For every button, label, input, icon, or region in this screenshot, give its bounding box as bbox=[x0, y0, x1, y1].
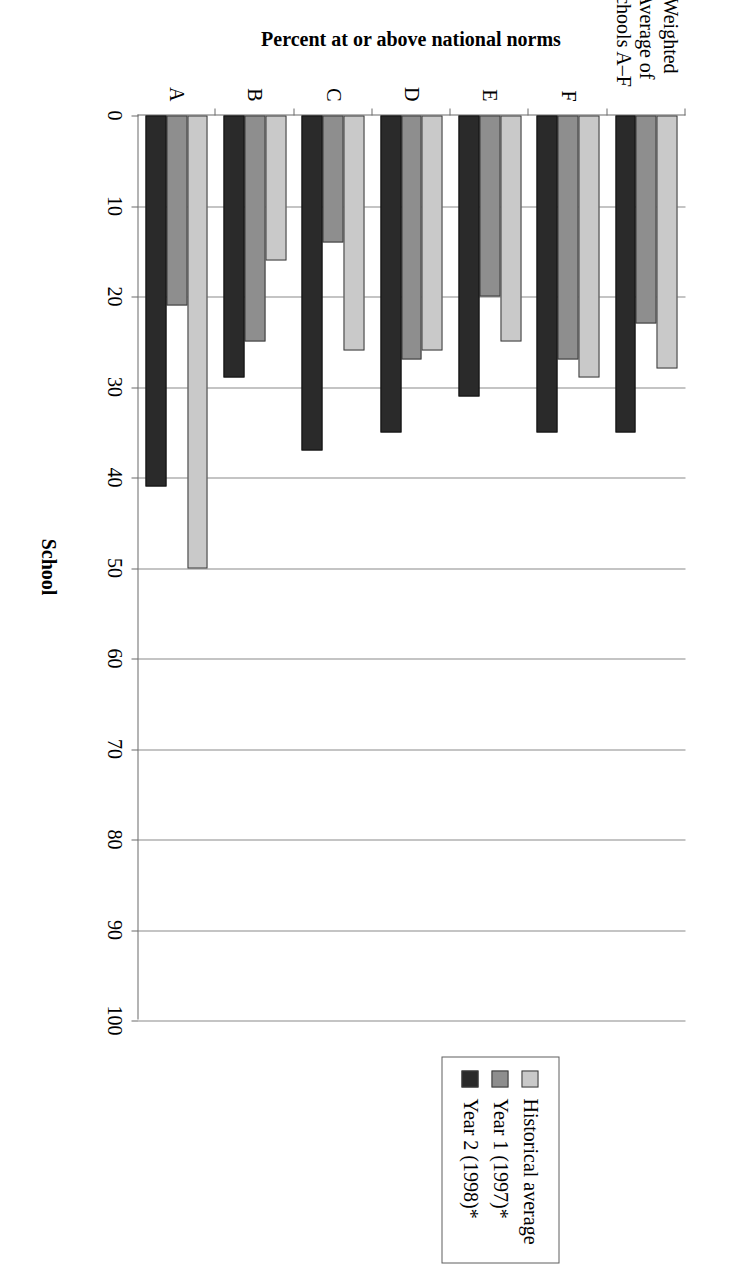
value-tick-label: 60 bbox=[102, 648, 125, 668]
value-tick bbox=[131, 387, 138, 388]
category-label: E bbox=[478, 89, 502, 101]
category-tick bbox=[371, 108, 372, 115]
bar bbox=[635, 115, 656, 323]
category-tick bbox=[449, 108, 450, 115]
gridline bbox=[138, 658, 685, 659]
bar bbox=[479, 115, 500, 296]
category-label: C bbox=[321, 88, 345, 101]
gridline bbox=[138, 387, 685, 388]
bar bbox=[401, 115, 422, 359]
bar bbox=[244, 115, 265, 341]
bar bbox=[265, 115, 286, 260]
category-label: F bbox=[556, 90, 580, 101]
value-tick-label: 0 bbox=[102, 110, 125, 120]
light-gray-swatch bbox=[522, 1070, 539, 1087]
bar bbox=[578, 115, 599, 377]
category-label: D bbox=[399, 87, 423, 101]
value-tick-label: 80 bbox=[102, 829, 125, 849]
plot-area: ABCDEFWeighted Average of Schools A–F010… bbox=[137, 114, 685, 1019]
category-label: Weighted Average of Schools A–F bbox=[610, 0, 681, 101]
bar bbox=[145, 115, 166, 486]
legend-item: Historical average bbox=[515, 1070, 545, 1244]
category-tick bbox=[684, 108, 685, 115]
gridline bbox=[138, 930, 685, 931]
value-tick bbox=[131, 1020, 138, 1021]
bar-chart-figure: Percent at or above national norms ABCDE… bbox=[0, 0, 749, 1277]
bar bbox=[322, 115, 343, 242]
y-axis-title: Percent at or above national norms bbox=[137, 26, 685, 52]
bar bbox=[536, 115, 557, 432]
legend-item-label: Historical average bbox=[519, 1098, 542, 1244]
gridline bbox=[138, 568, 685, 569]
bar bbox=[223, 115, 244, 377]
value-tick bbox=[131, 115, 138, 116]
gridline bbox=[138, 839, 685, 840]
bar bbox=[166, 115, 187, 305]
category-tick bbox=[606, 108, 607, 115]
legend-item-label: Year 2 (1998)* bbox=[459, 1098, 482, 1218]
category-tick bbox=[293, 108, 294, 115]
bar bbox=[343, 115, 364, 350]
value-tick-label: 30 bbox=[102, 377, 125, 397]
value-tick-label: 40 bbox=[102, 467, 125, 487]
value-tick bbox=[131, 839, 138, 840]
rotated-figure-container: Percent at or above national norms ABCDE… bbox=[0, 0, 749, 1277]
bar bbox=[557, 115, 578, 359]
bar bbox=[500, 115, 521, 341]
legend-item-label: Year 1 (1997)* bbox=[489, 1098, 512, 1218]
bar bbox=[187, 115, 208, 568]
value-tick bbox=[131, 296, 138, 297]
bar bbox=[421, 115, 442, 350]
x-axis-title: School bbox=[36, 114, 59, 1019]
value-tick bbox=[131, 930, 138, 931]
category-tick bbox=[527, 108, 528, 115]
value-tick-label: 90 bbox=[102, 920, 125, 940]
value-tick bbox=[131, 568, 138, 569]
bar bbox=[301, 115, 322, 450]
value-tick bbox=[131, 749, 138, 750]
value-tick bbox=[131, 206, 138, 207]
dark-swatch bbox=[462, 1070, 479, 1087]
y-axis-title-text: Percent at or above national norms bbox=[261, 28, 561, 51]
gridline bbox=[138, 1020, 685, 1021]
bar bbox=[458, 115, 479, 396]
value-tick-label: 20 bbox=[102, 286, 125, 306]
bar bbox=[615, 115, 636, 432]
category-label: B bbox=[243, 88, 267, 101]
value-tick-label: 50 bbox=[102, 558, 125, 578]
gridline bbox=[138, 477, 685, 478]
medium-gray-swatch bbox=[492, 1070, 509, 1087]
value-tick bbox=[131, 658, 138, 659]
bar bbox=[380, 115, 401, 432]
value-tick-label: 70 bbox=[102, 739, 125, 759]
value-tick-label: 100 bbox=[102, 1005, 125, 1035]
value-tick bbox=[131, 477, 138, 478]
value-tick-label: 10 bbox=[102, 196, 125, 216]
legend-item: Year 1 (1997)* bbox=[485, 1070, 515, 1244]
legend-item: Year 2 (1998)* bbox=[455, 1070, 485, 1244]
category-label: A bbox=[164, 87, 188, 101]
category-tick bbox=[214, 108, 215, 115]
bar bbox=[656, 115, 677, 368]
gridline bbox=[138, 749, 685, 750]
chart-legend: Historical averageYear 1 (1997)*Year 2 (… bbox=[441, 1056, 559, 1263]
